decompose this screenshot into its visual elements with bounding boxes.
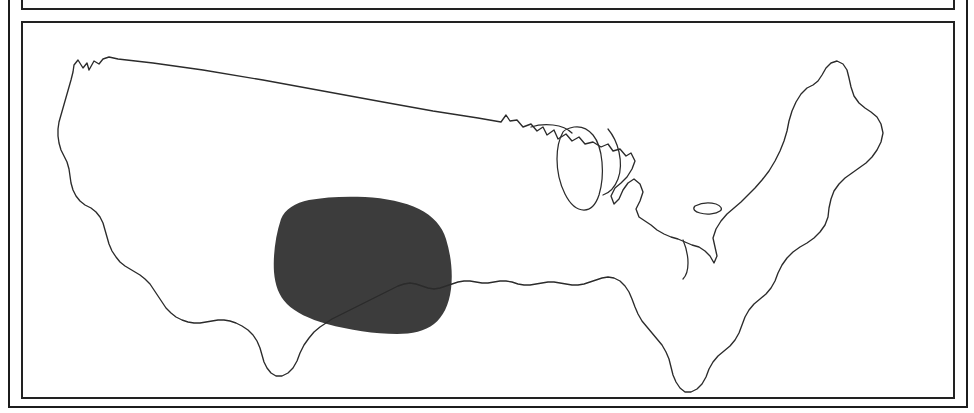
shaded-survey-area [274,197,452,334]
map-panel [21,21,955,399]
usa-map-svg [23,23,953,397]
long-island-outline [694,203,722,214]
chesapeake-bay-outline [683,240,688,279]
figure-root: AREA COVERED BY THE SURVEY [0,0,974,413]
figure-caption-box: AREA COVERED BY THE SURVEY [21,0,955,10]
lake-michigan-outline [557,127,602,210]
usa-coastline-path [58,57,883,392]
